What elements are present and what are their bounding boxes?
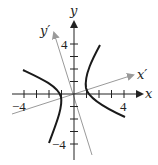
y-axis xyxy=(70,22,78,160)
x-tick-label-4: 4 xyxy=(120,99,127,114)
x-axis xyxy=(12,90,142,98)
y-prime-axis-label: y′ xyxy=(39,23,50,38)
hyperbola-left-branch xyxy=(23,70,61,143)
rotated-hyperbola-diagram: y x y′ x′ 4 −4 −4 4 xyxy=(0,0,158,165)
y-tick-label-neg4: −4 xyxy=(52,137,66,152)
diagram-svg: y x y′ x′ 4 −4 −4 4 xyxy=(0,0,158,165)
x-prime-axis-label: x′ xyxy=(137,67,147,82)
y-tick-label-4: 4 xyxy=(61,37,68,52)
y-axis-label: y xyxy=(69,3,78,18)
x-axis-label: x xyxy=(145,86,153,101)
x-tick-label-neg4: −4 xyxy=(12,99,26,114)
